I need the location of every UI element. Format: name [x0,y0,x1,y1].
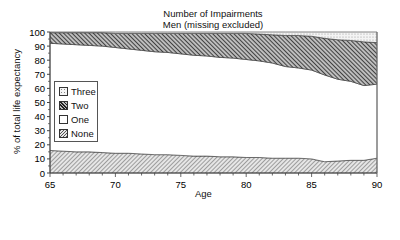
legend-label: Two [71,100,88,111]
y-tick-label: 20 [34,139,45,150]
white-swatch-icon [59,115,68,124]
legend-label: None [71,128,94,139]
x-tick-label: 90 [372,179,383,190]
light-hatch-swatch-icon [59,129,68,138]
x-tick-label: 75 [176,179,187,190]
dotted-swatch-icon [59,87,68,96]
legend-item-none: None [59,127,94,139]
y-tick-label: 30 [34,125,45,136]
y-tick-label: 50 [34,97,45,108]
y-axis-label: % of total life expectancy [11,42,22,162]
y-tick-label: 10 [34,153,45,164]
x-tick-label: 70 [110,179,121,190]
y-tick-label: 0 [40,168,45,179]
y-tick-label: 40 [34,111,45,122]
legend-item-three: Three [59,85,96,97]
x-tick-label: 85 [306,179,317,190]
y-tick-label: 60 [34,83,45,94]
legend-item-two: Two [59,99,88,111]
legend-item-one: One [59,113,89,125]
dark-hatch-swatch-icon [59,101,68,110]
x-tick-label: 80 [241,179,252,190]
area-layers [50,32,377,173]
y-tick-label: 100 [29,27,45,38]
x-tick-label: 65 [45,179,56,190]
y-tick-label: 70 [34,69,45,80]
legend: Three Two One None [54,81,98,142]
y-tick-label: 90 [34,41,45,52]
y-tick-label: 80 [34,55,45,66]
x-axis-label: Age [195,188,212,199]
legend-label: One [71,114,89,125]
legend-label: Three [71,86,96,97]
